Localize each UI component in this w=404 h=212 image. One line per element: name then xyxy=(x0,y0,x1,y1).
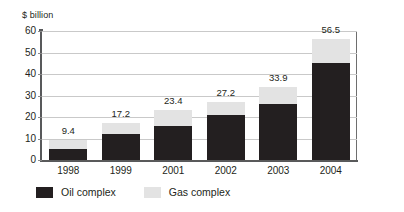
legend-item-oil-complex: Oil complex xyxy=(36,186,116,198)
bar-segment-oil-complex-1999 xyxy=(102,134,140,160)
y-tick-label-20: 20 xyxy=(6,111,36,122)
bar-total-label-1998: 9.4 xyxy=(62,125,75,136)
y-tick-label-60: 60 xyxy=(6,25,36,36)
bar-total-label-2002: 27.2 xyxy=(217,87,236,98)
gridline-0 xyxy=(42,160,357,161)
bar-segment-oil-complex-2002 xyxy=(207,115,245,160)
bar-series: 9.417.223.427.233.956.5 xyxy=(42,31,357,160)
legend-label: Gas complex xyxy=(169,186,230,198)
stacked-bar-chart: $ billion 6050403020100 9.417.223.427.23… xyxy=(0,0,404,212)
x-tick-label-2004: 2004 xyxy=(301,165,361,176)
bar-group-2004: 56.5 xyxy=(312,31,350,160)
bar-segment-oil-complex-1998 xyxy=(49,149,87,160)
bar-segment-oil-complex-2001 xyxy=(154,126,192,160)
y-tick-label-10: 10 xyxy=(6,133,36,144)
bar-group-2002: 27.2 xyxy=(207,31,245,160)
bar-group-2001: 23.4 xyxy=(154,31,192,160)
bar-group-2003: 33.9 xyxy=(259,31,297,160)
y-axis-title: $ billion xyxy=(22,10,53,20)
bar-segment-gas-complex-2002 xyxy=(207,102,245,115)
x-tick-label-1998: 1998 xyxy=(38,165,98,176)
gas-swatch-icon xyxy=(144,187,161,198)
y-tick-label-40: 40 xyxy=(6,68,36,79)
legend-label: Oil complex xyxy=(61,186,116,198)
y-tick-label-0: 0 xyxy=(6,154,36,165)
plot-area: 9.417.223.427.233.956.5 xyxy=(42,31,357,160)
y-tick-label-30: 30 xyxy=(6,90,36,101)
x-tick-label-2001: 2001 xyxy=(143,165,203,176)
bar-segment-gas-complex-1998 xyxy=(49,140,87,149)
bar-group-1998: 9.4 xyxy=(49,31,87,160)
y-tick-label-50: 50 xyxy=(6,47,36,58)
oil-swatch-icon xyxy=(36,187,53,198)
bar-segment-gas-complex-2003 xyxy=(259,87,297,104)
bar-segment-gas-complex-2004 xyxy=(312,39,350,64)
x-tick-label-1999: 1999 xyxy=(91,165,151,176)
bar-segment-gas-complex-1999 xyxy=(102,123,140,134)
bar-segment-oil-complex-2004 xyxy=(312,63,350,160)
bar-total-label-2003: 33.9 xyxy=(269,72,288,83)
x-tick-label-2002: 2002 xyxy=(196,165,256,176)
bar-total-label-2001: 23.4 xyxy=(164,95,183,106)
bar-group-1999: 17.2 xyxy=(102,31,140,160)
chart-legend: Oil complexGas complex xyxy=(36,186,230,198)
bar-total-label-2004: 56.5 xyxy=(322,24,341,35)
x-tick-label-2003: 2003 xyxy=(248,165,308,176)
bar-segment-oil-complex-2003 xyxy=(259,104,297,160)
legend-item-gas-complex: Gas complex xyxy=(144,186,230,198)
bar-segment-gas-complex-2001 xyxy=(154,110,192,126)
bar-total-label-1999: 17.2 xyxy=(112,108,131,119)
